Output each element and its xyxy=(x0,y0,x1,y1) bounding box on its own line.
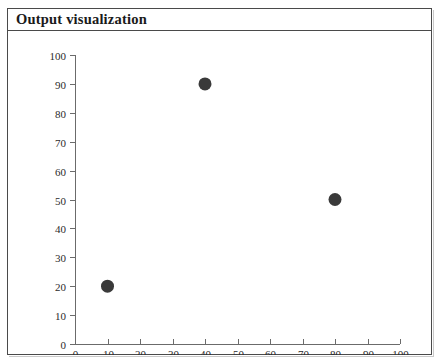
x-axis-ticks: 0102030405060708090100 xyxy=(73,339,410,355)
y-tick-label: 60 xyxy=(55,166,67,178)
data-points-group xyxy=(101,77,342,292)
y-tick-label: 50 xyxy=(55,195,67,207)
y-tick-label: 90 xyxy=(55,79,67,91)
y-tick-label: 100 xyxy=(50,50,67,62)
x-tick-label: 50 xyxy=(233,348,245,355)
x-tick-label: 70 xyxy=(298,348,310,355)
data-point xyxy=(199,77,212,90)
page-title: Output visualization xyxy=(16,11,147,28)
panel-title-bar: Output visualization xyxy=(8,9,431,31)
y-tick-label: 80 xyxy=(55,108,67,120)
y-tick-label: 30 xyxy=(55,252,67,264)
x-tick-label: 60 xyxy=(265,348,277,355)
axes-group xyxy=(75,55,400,344)
x-tick-label: 40 xyxy=(200,348,212,355)
scatter-plot-svg: 0102030405060708090100 01020304050607080… xyxy=(8,31,432,355)
data-point xyxy=(329,193,342,206)
y-tick-label: 20 xyxy=(55,281,67,293)
x-tick-label: 80 xyxy=(330,348,342,355)
data-point xyxy=(101,280,114,293)
y-tick-label: 70 xyxy=(55,137,67,149)
x-tick-label: 10 xyxy=(103,348,115,355)
y-axis-ticks: 0102030405060708090100 xyxy=(50,50,76,351)
plot-area: 0102030405060708090100 01020304050607080… xyxy=(8,31,431,354)
x-tick-label: 0 xyxy=(73,348,79,355)
output-visualization-panel: Output visualization 0102030405060708090… xyxy=(7,8,432,355)
x-tick-label: 20 xyxy=(135,348,147,355)
x-tick-label: 90 xyxy=(363,348,375,355)
x-tick-label: 30 xyxy=(168,348,180,355)
x-tick-label: 100 xyxy=(392,348,409,355)
y-tick-label: 0 xyxy=(61,339,67,351)
y-tick-label: 10 xyxy=(55,310,67,322)
y-tick-label: 40 xyxy=(55,223,67,235)
